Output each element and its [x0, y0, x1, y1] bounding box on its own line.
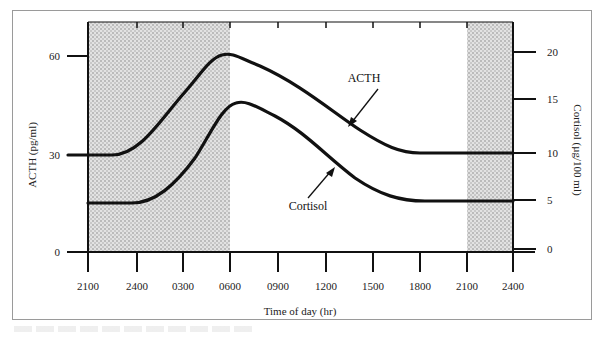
x-tick-label: 1200	[315, 280, 338, 292]
left-tick-label: 60	[49, 50, 61, 62]
x-tick-label: 0300	[172, 280, 195, 292]
night-shade-right	[467, 22, 513, 252]
left-y-tick-labels: 60 30 0	[49, 50, 61, 258]
left-tick-label: 30	[49, 149, 61, 161]
right-tick-label: 0	[547, 243, 553, 255]
acth-arrow-icon	[348, 89, 378, 127]
x-tick-label: 2400	[126, 280, 149, 292]
left-axis-title: ACTH (pg/ml)	[26, 122, 39, 188]
x-ticks	[88, 252, 513, 272]
x-tick-label: 2100	[77, 280, 100, 292]
acth-annotation: ACTH	[348, 71, 381, 85]
right-tick-label: 20	[547, 46, 559, 58]
right-y-ticks	[513, 52, 536, 249]
x-tick-label: 2100	[456, 280, 479, 292]
cortisol-annotation: Cortisol	[289, 199, 328, 213]
right-axis-title: Cortisol (µg/100 ml)	[571, 104, 584, 196]
x-tick-label: 1500	[362, 280, 385, 292]
x-tick-label: 2400	[502, 280, 525, 292]
left-tick-label: 0	[55, 246, 61, 258]
x-tick-labels: 2100 2400 0300 0600 0900 1200 1500 1800 …	[77, 280, 525, 292]
right-y-tick-labels: 20 15 10 5 0	[547, 46, 559, 255]
faded-caption	[14, 326, 254, 332]
x-tick-label: 1800	[409, 280, 432, 292]
cortisol-arrow-icon	[308, 167, 335, 198]
x-axis-title: Time of day (hr)	[264, 305, 337, 318]
x-tick-label: 0600	[219, 280, 242, 292]
right-tick-label: 10	[547, 147, 559, 159]
right-tick-label: 15	[547, 93, 559, 105]
right-tick-label: 5	[547, 194, 553, 206]
x-tick-label: 0900	[267, 280, 290, 292]
chart: 2100 2400 0300 0600 0900 1200 1500 1800 …	[0, 0, 603, 339]
